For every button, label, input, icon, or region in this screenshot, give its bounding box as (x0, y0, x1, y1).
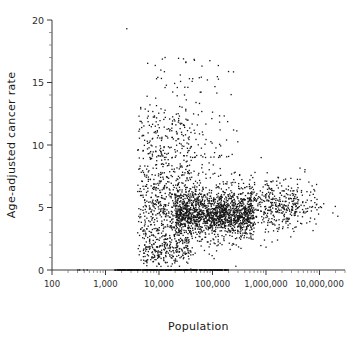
data-point (281, 195, 282, 196)
data-point (249, 207, 250, 208)
data-point (175, 222, 176, 223)
data-point (235, 222, 236, 223)
data-point (288, 198, 289, 199)
data-point (169, 250, 170, 251)
data-point (128, 269, 129, 270)
data-point (186, 155, 187, 156)
data-point (281, 212, 282, 213)
data-point (163, 209, 164, 210)
data-point (175, 198, 176, 199)
data-point (161, 151, 162, 152)
data-point (247, 218, 248, 219)
data-point (219, 144, 220, 145)
data-point (156, 239, 157, 240)
data-point (271, 190, 272, 191)
data-point (185, 237, 186, 238)
data-point (163, 212, 164, 213)
data-point (174, 193, 175, 194)
data-point (232, 205, 233, 206)
data-point (213, 239, 214, 240)
data-point (176, 256, 177, 257)
data-point (184, 185, 185, 186)
data-point (184, 240, 185, 241)
data-point (220, 223, 221, 224)
data-point (229, 225, 230, 226)
data-point (213, 258, 214, 259)
data-point (168, 163, 169, 164)
data-point (216, 187, 217, 188)
data-point (219, 243, 220, 244)
data-point (176, 145, 177, 146)
data-point (168, 205, 169, 206)
data-point (247, 225, 248, 226)
data-point (278, 228, 279, 229)
data-point (201, 196, 202, 197)
data-point (181, 227, 182, 228)
data-point (250, 209, 251, 210)
data-point (175, 200, 176, 201)
data-point (288, 205, 289, 206)
data-point (161, 197, 162, 198)
data-point (160, 192, 161, 193)
data-point (192, 213, 193, 214)
data-point (175, 247, 176, 248)
data-point (187, 205, 188, 206)
data-point (181, 195, 182, 196)
data-point (117, 269, 118, 270)
data-point (146, 168, 147, 169)
data-point (192, 223, 193, 224)
data-point (244, 214, 245, 215)
data-point (249, 212, 250, 213)
data-point (234, 172, 235, 173)
data-point (176, 188, 177, 189)
data-point (250, 193, 251, 194)
data-point (292, 210, 293, 211)
data-point (214, 152, 215, 153)
data-point (224, 226, 225, 227)
data-point (208, 200, 209, 201)
data-point (231, 173, 232, 174)
data-point (163, 258, 164, 259)
data-point (206, 207, 207, 208)
data-point (187, 228, 188, 229)
x-axis-title: Population (168, 320, 229, 333)
data-point (245, 214, 246, 215)
data-point (255, 195, 256, 196)
data-point (157, 199, 158, 200)
data-point (182, 211, 183, 212)
data-point (172, 263, 173, 264)
data-point (248, 215, 249, 216)
data-point (245, 216, 246, 217)
data-point (245, 209, 246, 210)
data-point (230, 203, 231, 204)
data-point (156, 218, 157, 219)
data-point (218, 221, 219, 222)
data-point (187, 203, 188, 204)
data-point (284, 216, 285, 217)
data-point (189, 218, 190, 219)
data-point (316, 204, 317, 205)
data-point (196, 186, 197, 187)
data-point (240, 222, 241, 223)
data-point (138, 216, 139, 217)
data-point (202, 231, 203, 232)
data-point (209, 228, 210, 229)
data-point (243, 221, 244, 222)
data-point (216, 250, 217, 251)
data-point (141, 121, 142, 122)
data-point (260, 245, 261, 246)
data-point (248, 210, 249, 211)
data-point (304, 169, 305, 170)
data-point (158, 202, 159, 203)
data-point (307, 200, 308, 201)
data-point (318, 213, 319, 214)
data-point (184, 251, 185, 252)
data-point (171, 183, 172, 184)
data-point (169, 256, 170, 257)
data-point (175, 211, 176, 212)
data-point (274, 202, 275, 203)
data-point (151, 244, 152, 245)
data-point (272, 198, 273, 199)
data-point (155, 132, 156, 133)
data-point (189, 216, 190, 217)
